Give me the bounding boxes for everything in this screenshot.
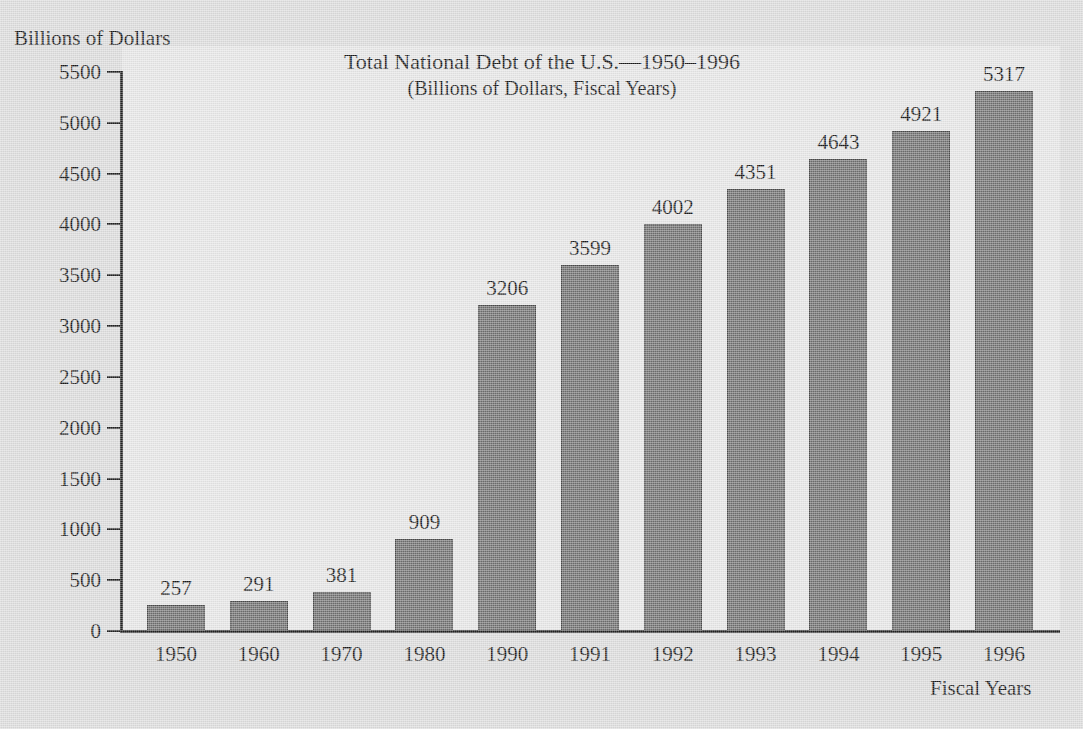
- bar[interactable]: [478, 305, 536, 631]
- y-tick-mark: [107, 376, 121, 378]
- chart-title-main: Total National Debt of the U.S.—1950–199…: [344, 49, 740, 74]
- bar-value-label: 3599: [545, 238, 635, 259]
- bar-value-label: 4643: [793, 132, 883, 153]
- x-tick-label: 1970: [297, 644, 387, 665]
- y-tick-label: 2500: [15, 367, 101, 388]
- bar-value-label: 3206: [462, 278, 552, 299]
- y-tick-label: 1000: [15, 519, 101, 540]
- x-tick-label: 1990: [462, 644, 552, 665]
- y-tick-mark: [107, 579, 121, 581]
- bar[interactable]: [561, 265, 619, 631]
- chart-subtitle: (Billions of Dollars, Fiscal Years): [282, 75, 802, 102]
- y-tick-mark: [107, 325, 121, 327]
- y-tick-label: 0: [15, 621, 101, 642]
- x-tick-label: 1991: [545, 644, 635, 665]
- bar-value-label: 4921: [876, 104, 966, 125]
- bar-value-label: 291: [214, 574, 304, 595]
- y-tick-label: 4000: [15, 214, 101, 235]
- bar-value-label: 257: [131, 578, 221, 599]
- bar[interactable]: [727, 189, 785, 631]
- y-tick-mark: [107, 71, 121, 73]
- bar-value-label: 381: [297, 565, 387, 586]
- bar[interactable]: [395, 539, 453, 631]
- x-tick-label: 1960: [214, 644, 304, 665]
- x-tick-label: 1993: [711, 644, 801, 665]
- y-axis-line: [120, 71, 123, 633]
- y-tick-mark: [107, 173, 121, 175]
- bar-value-label: 909: [379, 512, 469, 533]
- y-tick-mark: [107, 223, 121, 225]
- y-tick-label: 500: [15, 570, 101, 591]
- x-tick-label: 1994: [793, 644, 883, 665]
- bar[interactable]: [313, 592, 371, 631]
- x-tick-label: 1992: [628, 644, 718, 665]
- y-tick-mark: [107, 478, 121, 480]
- y-tick-mark: [107, 122, 121, 124]
- bar[interactable]: [230, 601, 288, 631]
- chart-title: Total National Debt of the U.S.—1950–199…: [282, 48, 802, 102]
- bar[interactable]: [892, 131, 950, 631]
- bar[interactable]: [147, 605, 205, 631]
- x-tick-label: 1980: [379, 644, 469, 665]
- bar[interactable]: [975, 91, 1033, 631]
- bar[interactable]: [809, 159, 867, 631]
- y-axis-title: Billions of Dollars: [14, 26, 170, 51]
- x-tick-label: 1996: [959, 644, 1049, 665]
- y-tick-mark: [107, 528, 121, 530]
- y-tick-mark: [107, 427, 121, 429]
- y-tick-mark: [107, 630, 121, 632]
- y-tick-mark: [107, 274, 121, 276]
- y-tick-label: 5000: [15, 113, 101, 134]
- y-tick-label: 1500: [15, 469, 101, 490]
- x-tick-label: 1950: [131, 644, 221, 665]
- bar-value-label: 4002: [628, 197, 718, 218]
- x-axis-title: Fiscal Years: [930, 676, 1032, 701]
- bar-value-label: 5317: [959, 64, 1049, 85]
- bar-value-label: 4351: [711, 162, 801, 183]
- y-tick-label: 3000: [15, 316, 101, 337]
- y-tick-label: 4500: [15, 164, 101, 185]
- chart-figure: Billions of Dollars Total National Debt …: [0, 0, 1083, 729]
- bar[interactable]: [644, 224, 702, 631]
- y-tick-label: 5500: [15, 62, 101, 83]
- x-tick-label: 1995: [876, 644, 966, 665]
- y-tick-label: 3500: [15, 265, 101, 286]
- y-tick-label: 2000: [15, 418, 101, 439]
